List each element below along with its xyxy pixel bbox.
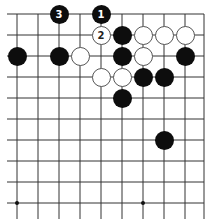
black-stone[interactable]: [113, 47, 132, 66]
go-board[interactable]: 312: [0, 0, 210, 219]
white-stone[interactable]: [155, 26, 174, 45]
move-number: 1: [98, 9, 105, 20]
star-point: [141, 201, 145, 205]
white-stone[interactable]: [113, 68, 132, 87]
star-point: [15, 201, 19, 205]
black-stone-3[interactable]: 3: [50, 5, 69, 24]
black-stone-1[interactable]: 1: [92, 5, 111, 24]
black-stone[interactable]: [50, 47, 69, 66]
white-stone-2[interactable]: 2: [92, 26, 111, 45]
white-stone[interactable]: [176, 26, 195, 45]
white-stone[interactable]: [134, 26, 153, 45]
white-stone[interactable]: [71, 47, 90, 66]
black-stone[interactable]: [134, 68, 153, 87]
move-number: 3: [56, 9, 63, 20]
black-stone[interactable]: [155, 131, 174, 150]
black-stone[interactable]: [8, 47, 27, 66]
white-stone[interactable]: [92, 68, 111, 87]
black-stone[interactable]: [155, 68, 174, 87]
black-stone[interactable]: [113, 26, 132, 45]
white-stone[interactable]: [134, 47, 153, 66]
move-number: 2: [98, 30, 105, 41]
black-stone[interactable]: [113, 89, 132, 108]
black-stone[interactable]: [176, 47, 195, 66]
